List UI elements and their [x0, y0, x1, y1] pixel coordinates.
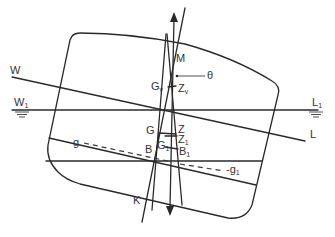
arrow-down-icon	[166, 206, 174, 216]
label-B: B	[145, 143, 152, 155]
theta-point	[176, 75, 179, 78]
arrow-up-icon	[170, 12, 178, 22]
label-W: W	[10, 64, 21, 76]
vertical-line-Gv	[152, 34, 166, 210]
label-theta: θ	[207, 69, 213, 81]
label-W1: W1	[14, 96, 28, 109]
label-L: L	[310, 128, 316, 140]
label-Zv: Zv	[178, 82, 189, 95]
label-K: K	[133, 194, 141, 206]
label-L1: L1	[312, 96, 322, 109]
g1-dashed-line	[180, 164, 224, 171]
label-g: g	[73, 136, 79, 148]
label-g1: -g1	[226, 163, 240, 176]
waterline-symbol-left-icon	[15, 112, 29, 117]
label-G: G	[146, 124, 155, 136]
ship-stability-diagram: W W1 L L1 M θ Gv Zv G Z Z1 B G1 B1 g -g1…	[0, 0, 335, 237]
waterline-symbol-right-icon	[309, 112, 323, 117]
label-M: M	[176, 52, 185, 64]
label-B1: B1	[179, 145, 190, 158]
label-G1: G1	[157, 139, 170, 152]
G-Z-connector	[159, 133, 176, 134]
